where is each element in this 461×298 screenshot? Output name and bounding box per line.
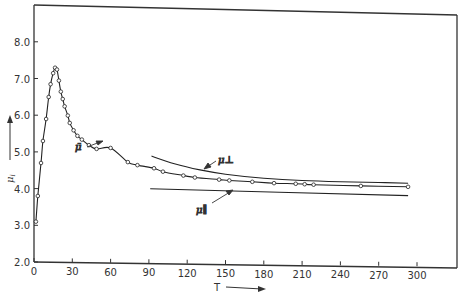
data-point-marker	[34, 220, 38, 224]
series-line-2	[150, 189, 408, 196]
label-mu-parallel: μ∥	[196, 204, 207, 215]
data-point-marker	[109, 146, 113, 150]
data-point-marker	[41, 139, 45, 143]
series-line-1	[152, 156, 409, 183]
data-point-marker	[63, 105, 67, 109]
data-point-marker	[161, 170, 165, 174]
data-point-marker	[68, 121, 72, 125]
data-point-marker	[126, 160, 130, 164]
x-tick-label: 180	[254, 269, 273, 280]
label-mu-bar: μ̄	[75, 141, 82, 152]
data-point-marker	[61, 97, 65, 101]
chart: 0306090120150180210240270300 2.03.04.05.…	[0, 0, 461, 298]
y-tick-label: 2.0	[14, 257, 30, 268]
data-point-marker	[51, 71, 55, 75]
data-point-marker	[182, 174, 186, 178]
series-layer	[34, 66, 410, 224]
x-tick-label: 90	[143, 267, 156, 278]
data-point-marker	[36, 194, 40, 198]
x-axis-ticks: 0306090120150180210240270300	[31, 258, 427, 281]
data-point-marker	[76, 134, 80, 138]
x-tick-label: 150	[216, 268, 235, 279]
x-tick-label: 30	[66, 266, 79, 277]
x-axis-label: T	[213, 282, 266, 293]
data-point-marker	[39, 161, 43, 165]
data-point-marker	[57, 79, 61, 83]
x-tick-label: 240	[331, 269, 350, 280]
data-point-marker	[228, 179, 232, 183]
data-point-marker	[312, 183, 316, 187]
series-line-0	[36, 67, 408, 221]
y-tick-label: 3.0	[14, 220, 30, 231]
data-point-marker	[66, 114, 70, 118]
data-point-marker	[95, 147, 99, 151]
x-tick-label: 210	[293, 269, 312, 280]
data-point-marker	[359, 184, 363, 188]
y-tick-label: 5.0	[14, 147, 30, 158]
data-point-marker	[49, 82, 53, 86]
data-point-marker	[47, 95, 51, 99]
data-point-marker	[217, 178, 221, 182]
y-tick-label: 6.0	[14, 110, 30, 121]
data-point-marker	[136, 163, 140, 167]
x-tick-label: 60	[104, 267, 117, 278]
y-tick-label: 4.0	[14, 184, 30, 195]
label-mu-perp: μ⊥	[218, 154, 234, 165]
data-point-marker	[294, 182, 298, 186]
annotations: μ̄ μ⊥ μ∥	[75, 141, 234, 215]
x-tick-label: 270	[369, 270, 388, 281]
data-point-marker	[152, 166, 156, 170]
data-point-marker	[303, 182, 307, 186]
plot-frame	[34, 5, 457, 268]
data-point-marker	[55, 68, 59, 72]
x-tick-label: 300	[407, 270, 426, 281]
x-tick-label: 0	[31, 266, 37, 277]
data-point-marker	[272, 181, 276, 185]
data-point-marker	[44, 117, 48, 121]
y-tick-label: 8.0	[14, 37, 30, 48]
data-point-marker	[251, 180, 255, 184]
svg-text:T: T	[213, 282, 221, 293]
data-point-marker	[193, 176, 197, 180]
data-point-marker	[59, 90, 63, 94]
data-point-marker	[72, 129, 76, 133]
data-point-marker	[406, 185, 410, 189]
y-tick-label: 7.0	[14, 74, 30, 85]
x-tick-label: 120	[178, 268, 197, 279]
svg-text:μi: μi	[4, 174, 17, 183]
